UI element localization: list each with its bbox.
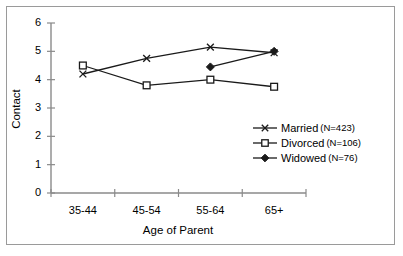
marker-divorced-55-64: [207, 76, 214, 83]
y-tick-label-0: 0: [15, 187, 41, 198]
axis-lines: [51, 23, 306, 193]
marker-divorced-65+: [271, 83, 278, 90]
series-lines: [83, 47, 274, 87]
y-tick-label-6: 6: [15, 17, 41, 28]
axis-ticks: [47, 23, 306, 197]
open-square-marker-icon: [252, 136, 278, 150]
legend-label-married: Married: [281, 122, 318, 134]
y-axis-title: Contact: [10, 73, 22, 145]
x-category-label-65+: 65+: [234, 205, 314, 216]
series-line-widowed: [210, 51, 274, 67]
marker-divorced-35-44: [79, 62, 86, 69]
legend-count-married: (N=423): [320, 122, 355, 133]
legend-count-widowed: (N=76): [328, 152, 357, 163]
chart-legend: Married(N=423)Divorced(N=106)Widowed(N=7…: [252, 120, 361, 165]
y-tick-label-1: 1: [15, 159, 41, 170]
marker-widowed-55-64: [206, 63, 214, 71]
marker-divorced-45-54: [143, 82, 150, 89]
legend-label-divorced: Divorced: [281, 137, 324, 149]
series-line-married: [83, 47, 274, 74]
x-axis-title: Age of Parent: [0, 224, 356, 236]
legend-item-divorced[interactable]: Divorced(N=106): [252, 135, 361, 150]
legend-count-divorced: (N=106): [326, 137, 361, 148]
marker-widowed-65+: [270, 47, 278, 55]
legend-item-widowed[interactable]: Widowed(N=76): [252, 150, 361, 165]
legend-label-widowed: Widowed: [281, 152, 326, 164]
filled-diamond-marker-icon-glyph: [261, 154, 269, 162]
figure-container: 6543210 35-4445-5455-6465+ Age of Parent…: [0, 0, 403, 256]
legend-item-married[interactable]: Married(N=423): [252, 120, 361, 135]
y-tick-label-5: 5: [15, 45, 41, 56]
series-line-divorced: [83, 66, 274, 87]
x-cross-marker-icon: [252, 121, 278, 135]
open-square-marker-icon-glyph: [262, 139, 268, 145]
filled-diamond-marker-icon: [252, 151, 278, 165]
